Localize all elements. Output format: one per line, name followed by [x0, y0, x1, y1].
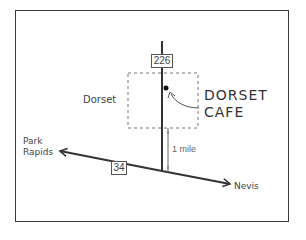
town-label: Dorset — [83, 94, 116, 105]
highway-34-road-east — [162, 171, 230, 184]
destination-label-line1: DORSET — [204, 87, 268, 104]
cafe-location-dot — [164, 86, 169, 91]
west-destination-line1: Park — [23, 136, 53, 147]
west-destination-line2: Rapids — [23, 147, 53, 158]
distance-label: 1 mile — [172, 144, 196, 154]
route-34-shield: 34 — [111, 161, 127, 175]
destination-label-line2: CAFE — [204, 104, 268, 121]
east-destination-label: Nevis — [234, 181, 259, 191]
route-226-shield: 226 — [151, 54, 173, 68]
cafe-pointer-arrow — [171, 94, 199, 108]
west-destination-label: Park Rapids — [23, 136, 53, 158]
destination-label: DORSET CAFE — [204, 87, 268, 121]
